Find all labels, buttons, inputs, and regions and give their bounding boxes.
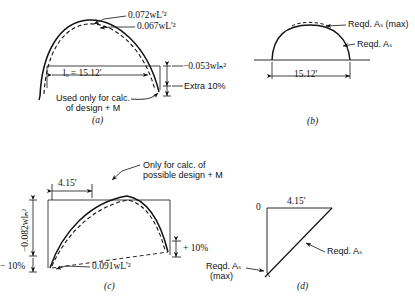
panel-b-leader-max bbox=[326, 25, 346, 26]
panel-a-note-line1: Used only for calc. bbox=[43, 93, 143, 103]
panel-b-reqd-as-label: Reqd. Aₛ bbox=[357, 39, 392, 49]
panel-a-span-label: lₒ = 15.12' bbox=[63, 68, 102, 79]
panel-d-leader-as bbox=[306, 243, 325, 252]
panel-b-span-label: 15.12' bbox=[294, 69, 317, 80]
panel-c-minus-ten-label: − 10% bbox=[0, 261, 25, 272]
panel-d-id: (d) bbox=[297, 281, 308, 291]
panel-c-reference-box bbox=[48, 200, 170, 268]
panel-c-id: (c) bbox=[104, 281, 115, 291]
panel-d-reqd-as-max-line2: (max) bbox=[210, 271, 233, 281]
panel-d-distance-label: 4.15' bbox=[287, 196, 305, 207]
panel-a-id: (a) bbox=[92, 115, 103, 125]
panel-a-extra-label: Extra 10% bbox=[184, 81, 226, 91]
panel-d-reqd-as-max-line1: Reqd. Aₛ bbox=[206, 261, 241, 271]
panel-c-negative-moment-label: −0.082wlₙ² bbox=[20, 209, 31, 252]
panel-a-left-tail bbox=[39, 96, 40, 100]
panel-b-id: (b) bbox=[307, 116, 318, 126]
panel-a-negative-moment-label: −0.053wlₙ² bbox=[183, 61, 226, 72]
panel-d-zero-label: 0 bbox=[256, 202, 261, 213]
panel-c-distance-label: 4.15' bbox=[58, 178, 76, 189]
panel-d-reqd-as-label: Reqd. Aₛ bbox=[327, 246, 362, 256]
panel-d-graphics bbox=[246, 208, 332, 277]
panel-a-note-line2: of design + M bbox=[43, 103, 143, 113]
panel-d-leader-as-max bbox=[246, 268, 264, 271]
panel-a-moment-dashed-label: 0.067wL'² bbox=[137, 21, 176, 32]
panel-b-steel-curve bbox=[272, 25, 350, 60]
panel-c-note-line2: possible design + M bbox=[143, 170, 223, 180]
panel-c-note-line1: Only for calc. of bbox=[143, 160, 206, 170]
panel-b-reqd-as-max-label: Reqd. Aₛ (max) bbox=[348, 19, 409, 29]
panel-a-moment-solid-label: 0.072wL'² bbox=[128, 10, 167, 21]
panel-c-plus-ten-ticks bbox=[172, 241, 181, 257]
panel-c-graphics bbox=[29, 165, 181, 272]
panel-c-plus-ten-label: + 10% bbox=[183, 243, 208, 254]
panel-c-note-leader bbox=[112, 165, 140, 180]
panel-c-positive-moment-label: 0.091wL'² bbox=[92, 261, 131, 272]
panel-d-steel-diagonal bbox=[265, 208, 332, 277]
panel-c-moment-curve-solid bbox=[50, 196, 168, 268]
panel-b-leader-as bbox=[343, 44, 355, 46]
